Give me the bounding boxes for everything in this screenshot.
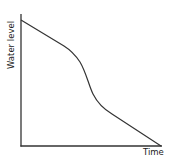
water-level-curve [21,20,161,146]
x-axis-label: Time [143,147,164,157]
chart-canvas [0,0,169,157]
y-axis-label: Water level [6,21,16,69]
